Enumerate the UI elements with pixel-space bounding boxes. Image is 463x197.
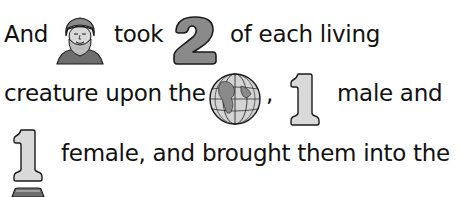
- word-of-each-living: of each living: [230, 23, 380, 46]
- comma: ,: [266, 82, 273, 105]
- number-two-icon: [171, 14, 219, 66]
- word-took: took: [114, 23, 163, 46]
- word-male-and: male and: [337, 82, 442, 105]
- number-one-icon: [288, 71, 322, 127]
- ark-icon: [7, 187, 49, 197]
- globe-icon: [207, 72, 263, 126]
- number-one-icon: [9, 127, 47, 183]
- word-and: And: [4, 23, 48, 46]
- word-creature-upon-the: creature upon the: [4, 82, 206, 105]
- noah-portrait-icon: [54, 14, 106, 66]
- word-female-and-brought-them-into-the: female, and brought them into the: [61, 142, 450, 165]
